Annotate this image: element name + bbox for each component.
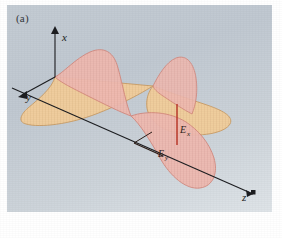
axis-x-label: x: [61, 31, 67, 43]
axis-x: [51, 26, 59, 77]
field-label-ey-base: E: [157, 148, 164, 159]
wave-diagram: x y z E x E y: [0, 0, 282, 238]
axis-z: [12, 88, 256, 197]
axis-z-label: z: [241, 191, 247, 203]
field-label-ex-base: E: [179, 124, 186, 135]
axis-y-label: y: [25, 91, 31, 103]
figure-container: (a): [0, 0, 282, 238]
